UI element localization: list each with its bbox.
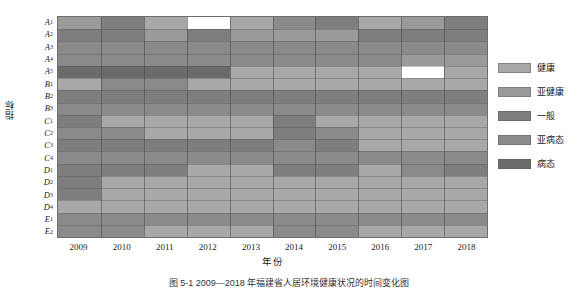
heatmap-cell bbox=[358, 127, 401, 139]
heatmap-cell bbox=[444, 139, 487, 151]
y-axis-tick-E1: E1 bbox=[27, 213, 55, 225]
heatmap-cell bbox=[358, 90, 401, 102]
heatmap-cell bbox=[315, 41, 358, 53]
x-axis-tick-2014: 2014 bbox=[272, 240, 315, 254]
heatmap-cell bbox=[58, 41, 101, 53]
heatmap-cell bbox=[444, 103, 487, 115]
heatmap-cell bbox=[444, 213, 487, 225]
heatmap-cell bbox=[444, 29, 487, 41]
heatmap-cell bbox=[144, 213, 187, 225]
heatmap-cell bbox=[187, 103, 230, 115]
heatmap-cell bbox=[315, 115, 358, 127]
legend-item-1[interactable]: 健康 bbox=[498, 62, 576, 73]
heatmap-cell bbox=[401, 78, 444, 90]
y-axis-tick-C1: C1 bbox=[27, 115, 55, 127]
heatmap-cell bbox=[101, 41, 144, 53]
legend-item-4[interactable]: 亚病态 bbox=[498, 134, 576, 145]
y-axis-tick-B2: B2 bbox=[27, 90, 55, 102]
heatmap-cell bbox=[58, 164, 101, 176]
figure-caption: 图 5-1 2009—2018 年福建省人居环境健康状况的时间变化图 bbox=[0, 276, 578, 289]
heatmap-cell bbox=[230, 213, 273, 225]
y-axis-tick-C4: C4 bbox=[27, 152, 55, 164]
y-axis-tick-D3: D3 bbox=[27, 189, 55, 201]
heatmap-cell bbox=[187, 188, 230, 200]
heatmap-cell bbox=[273, 78, 316, 90]
heatmap-cell bbox=[358, 103, 401, 115]
legend-item-5[interactable]: 病态 bbox=[498, 158, 576, 169]
x-axis-tick-2018: 2018 bbox=[445, 240, 488, 254]
heatmap-cell bbox=[273, 151, 316, 163]
heatmap-cell bbox=[144, 176, 187, 188]
heatmap-cell bbox=[315, 29, 358, 41]
heatmap-cell bbox=[358, 225, 401, 237]
heatmap-cell bbox=[358, 164, 401, 176]
heatmap-cell bbox=[273, 41, 316, 53]
legend-swatch bbox=[498, 135, 531, 145]
heatmap-cell bbox=[273, 66, 316, 78]
heatmap-cell bbox=[273, 200, 316, 212]
x-axis-tick-2009: 2009 bbox=[57, 240, 100, 254]
heatmap-cell bbox=[315, 188, 358, 200]
heatmap-cell bbox=[187, 225, 230, 237]
legend-item-3[interactable]: 一般 bbox=[498, 110, 576, 121]
heatmap-cell bbox=[144, 200, 187, 212]
heatmap-cell bbox=[144, 127, 187, 139]
x-axis-tick-2016: 2016 bbox=[359, 240, 402, 254]
y-axis-tick-B3: B3 bbox=[27, 102, 55, 114]
heatmap-cell bbox=[101, 103, 144, 115]
heatmap-cell bbox=[358, 151, 401, 163]
y-axis-tick-D1: D1 bbox=[27, 164, 55, 176]
heatmap-cell bbox=[273, 54, 316, 66]
heatmap-cell bbox=[230, 115, 273, 127]
heatmap-cell bbox=[444, 54, 487, 66]
heatmap-cell bbox=[315, 103, 358, 115]
heatmap-cell bbox=[144, 54, 187, 66]
heatmap-cell bbox=[315, 176, 358, 188]
heatmap-cell bbox=[401, 213, 444, 225]
heatmap-cell bbox=[444, 127, 487, 139]
heatmap-cell bbox=[187, 213, 230, 225]
heatmap-cell bbox=[315, 213, 358, 225]
heatmap-cell bbox=[315, 164, 358, 176]
legend-swatch bbox=[498, 63, 531, 73]
heatmap-cell bbox=[444, 151, 487, 163]
heatmap-cell bbox=[187, 66, 230, 78]
heatmap-cell bbox=[230, 176, 273, 188]
heatmap-cell bbox=[315, 90, 358, 102]
heatmap-cell bbox=[58, 17, 101, 29]
heatmap-cell bbox=[230, 78, 273, 90]
heatmap-cell bbox=[58, 78, 101, 90]
heatmap-cell bbox=[230, 225, 273, 237]
heatmap-cell bbox=[315, 200, 358, 212]
heatmap-cell bbox=[58, 139, 101, 151]
heatmap-cell bbox=[144, 90, 187, 102]
heatmap-cell bbox=[273, 127, 316, 139]
heatmap-cell bbox=[444, 188, 487, 200]
heatmap-cell bbox=[144, 66, 187, 78]
heatmap-cell bbox=[401, 90, 444, 102]
heatmap-cell bbox=[144, 164, 187, 176]
heatmap-cell bbox=[401, 41, 444, 53]
heatmap-cell bbox=[444, 17, 487, 29]
heatmap-cell bbox=[444, 115, 487, 127]
heatmap-cell bbox=[187, 17, 230, 29]
heatmap-cell bbox=[230, 139, 273, 151]
heatmap-plot bbox=[57, 16, 488, 238]
heatmap-cell bbox=[273, 17, 316, 29]
x-axis-tick-2017: 2017 bbox=[402, 240, 445, 254]
heatmap-cell bbox=[101, 151, 144, 163]
heatmap-cell bbox=[187, 127, 230, 139]
heatmap-cell bbox=[101, 200, 144, 212]
y-axis-tick-A2: A2 bbox=[27, 28, 55, 40]
heatmap-cell bbox=[230, 127, 273, 139]
x-axis-tick-2011: 2011 bbox=[143, 240, 186, 254]
heatmap-cell bbox=[401, 164, 444, 176]
heatmap-cell bbox=[230, 41, 273, 53]
heatmap-cell bbox=[358, 17, 401, 29]
heatmap-cell bbox=[101, 54, 144, 66]
legend: 健康亚健康一般亚病态病态 bbox=[498, 62, 576, 186]
legend-item-2[interactable]: 亚健康 bbox=[498, 86, 576, 97]
heatmap-cell bbox=[101, 115, 144, 127]
heatmap-cell bbox=[273, 139, 316, 151]
